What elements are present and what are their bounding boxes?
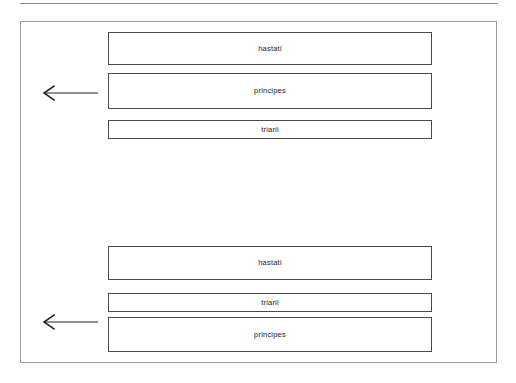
unit-line-label: triarii — [261, 299, 279, 307]
advance-direction-arrow — [39, 84, 99, 102]
unit-line-label: hastati — [258, 45, 282, 53]
advance-direction-arrow — [39, 313, 99, 331]
unit-line-label: triarii — [261, 126, 279, 134]
unit-line-box: principes — [108, 317, 432, 352]
unit-line-label: principes — [254, 331, 286, 339]
diagram-frame: hastati principes triarii hastati triari… — [20, 21, 497, 363]
unit-line-label: hastati — [258, 259, 282, 267]
unit-line-box: triarii — [108, 120, 432, 139]
unit-line-label: principes — [254, 87, 286, 95]
page-top-divider — [20, 3, 498, 4]
unit-line-box: triarii — [108, 293, 432, 312]
unit-line-box: principes — [108, 73, 432, 109]
unit-line-box: hastati — [108, 32, 432, 65]
unit-line-box: hastati — [108, 246, 432, 280]
